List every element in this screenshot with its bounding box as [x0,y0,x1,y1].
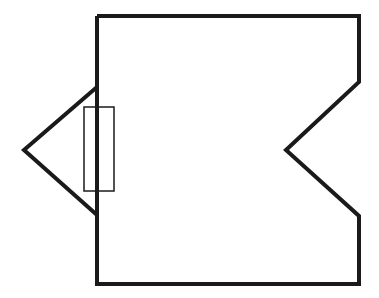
left-triangle-point [24,87,97,215]
diagram-svg [0,0,379,298]
body-outline [97,16,359,284]
diagram-canvas [0,0,379,298]
